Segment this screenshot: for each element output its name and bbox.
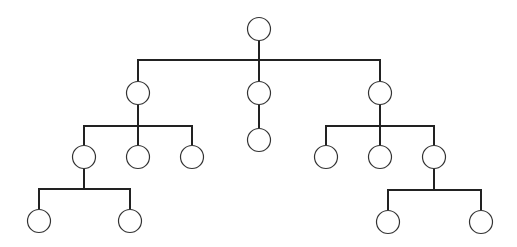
tree-edges — [39, 41, 481, 210]
tree-node-a — [127, 82, 150, 105]
tree-node-root — [248, 18, 271, 41]
tree-node-a1 — [73, 146, 96, 169]
tree-node-a1a — [28, 210, 51, 233]
tree-node-c2 — [369, 146, 392, 169]
tree-node-c — [369, 82, 392, 105]
tree-node-c3b — [470, 211, 493, 234]
tree-node-c3a — [377, 211, 400, 234]
tree-node-a2 — [127, 146, 150, 169]
tree-node-b — [248, 82, 271, 105]
tree-diagram — [0, 0, 517, 247]
tree-node-c1 — [315, 146, 338, 169]
tree-node-a3 — [181, 146, 204, 169]
tree-edge — [388, 190, 481, 210]
tree-node-c3 — [423, 146, 446, 169]
tree-node-b1 — [248, 129, 271, 152]
tree-edge — [39, 189, 130, 209]
tree-node-a1b — [119, 210, 142, 233]
